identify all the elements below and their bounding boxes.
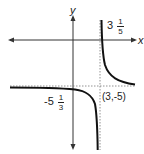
y-axis-label: y <box>70 5 76 16</box>
y-intercept-denominator: 3 <box>59 103 63 112</box>
y-intercept-numerator: 1 <box>58 93 64 103</box>
x-intercept-label: 3 1 5 <box>107 17 124 36</box>
x-intercept-fraction: 1 5 <box>117 17 123 36</box>
x-intercept-denominator: 5 <box>118 27 122 36</box>
y-axis <box>71 15 76 150</box>
x-intercept-numerator: 1 <box>117 17 123 27</box>
x-axis-label: x <box>138 35 144 46</box>
y-intercept-whole: -5 <box>44 95 54 107</box>
y-intercept-label: -5 1 3 <box>44 93 64 112</box>
y-intercept-fraction: 1 3 <box>58 93 64 112</box>
x-intercept-whole: 3 <box>107 19 113 31</box>
asymptote-intersection-label: (3,-5) <box>102 92 126 102</box>
